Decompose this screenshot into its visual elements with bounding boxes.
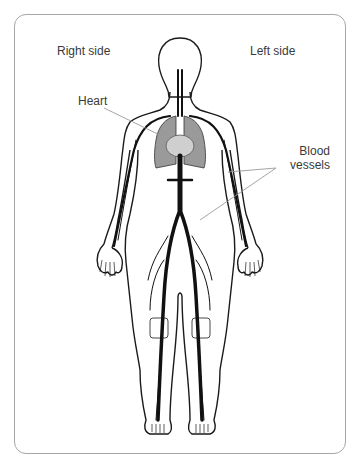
head xyxy=(159,38,202,97)
toes-left xyxy=(196,424,208,433)
left-side-label: Left side xyxy=(250,44,295,58)
vessels-leader-line-lower xyxy=(200,168,276,220)
waist-left xyxy=(222,150,235,318)
blood-vessels-label-line2: vessels xyxy=(268,158,330,172)
crotch xyxy=(178,293,182,296)
heart-label: Heart xyxy=(78,94,107,108)
carotid xyxy=(178,70,182,116)
iliac-right xyxy=(158,210,180,420)
body-outline xyxy=(97,38,263,434)
leg-right-outer xyxy=(132,296,178,434)
blood-vessels-label: Blood vessels xyxy=(268,144,330,172)
iliac-left xyxy=(180,210,202,420)
heart-leader-line xyxy=(104,108,166,138)
toes-right xyxy=(152,424,164,433)
body-figure xyxy=(0,0,358,468)
waist-right xyxy=(125,150,138,318)
blood-vessels-label-line1: Blood xyxy=(268,144,330,158)
leg-left-outer xyxy=(182,296,228,434)
knee-right xyxy=(150,318,168,338)
knee-left xyxy=(192,318,210,338)
right-side-label: Right side xyxy=(57,44,110,58)
